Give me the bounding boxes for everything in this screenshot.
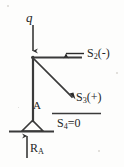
s3-sign: (+)	[87, 90, 102, 104]
s4-symbol: S	[57, 116, 64, 130]
s3-symbol: S	[76, 90, 83, 104]
scan-artifact	[18, 107, 19, 108]
ra-symbol: R	[30, 141, 38, 155]
diagram-canvas	[0, 0, 124, 167]
ra-subscript: A	[38, 147, 44, 156]
label-load-q: q	[26, 11, 33, 24]
scan-artifact	[116, 72, 118, 74]
label-joint-a: A	[33, 100, 41, 111]
s4-value: =0	[68, 116, 81, 130]
s2-symbol: S	[87, 46, 94, 60]
scan-artifact	[7, 5, 9, 7]
structural-diagram: q S2(-) S3(+) S4=0 A RA	[0, 0, 124, 167]
scan-artifact	[98, 150, 100, 152]
label-force-s2: S2(-)	[87, 47, 110, 61]
label-force-s3: S3(+)	[76, 91, 102, 105]
diagonal-member	[34, 59, 72, 97]
label-reaction-ra: RA	[30, 142, 44, 156]
s2-sign: (-)	[98, 46, 110, 60]
label-force-s4: S4=0	[57, 117, 81, 131]
